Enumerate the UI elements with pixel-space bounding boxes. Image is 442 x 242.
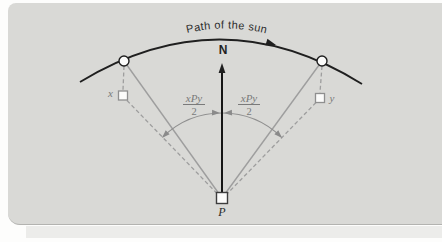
marker-x bbox=[119, 91, 128, 100]
sun-diagram: Path of the sun N x y P bbox=[0, 0, 442, 242]
angle-label-right: xPy 2 bbox=[238, 92, 260, 118]
angle-arrowhead-top-right-icon bbox=[224, 110, 232, 116]
north-label: N bbox=[219, 43, 228, 57]
sun-position-right bbox=[317, 56, 327, 66]
label-x: x bbox=[107, 87, 113, 99]
label-p: P bbox=[217, 205, 226, 219]
north-arrowhead-icon bbox=[219, 63, 226, 73]
sun-path-label: Path of the sun bbox=[185, 18, 269, 35]
sight-line-left bbox=[124, 61, 222, 198]
observer-marker bbox=[217, 193, 228, 204]
drop-line-right bbox=[320, 66, 322, 93]
bearing-line-right bbox=[226, 103, 317, 196]
angle-label-left-numerator: xPy bbox=[185, 92, 203, 104]
page: Path of the sun N x y P bbox=[0, 0, 442, 242]
angle-label-left-denominator: 2 bbox=[191, 106, 196, 117]
marker-y bbox=[316, 94, 325, 103]
sun-position-left bbox=[119, 56, 129, 66]
angle-arrowhead-top-left-icon bbox=[212, 110, 220, 116]
drop-line-left bbox=[123, 66, 124, 90]
label-y: y bbox=[329, 92, 335, 104]
angle-label-left: xPy 2 bbox=[183, 92, 205, 118]
angle-label-right-numerator: xPy bbox=[240, 92, 258, 104]
angle-label-right-denominator: 2 bbox=[246, 106, 251, 117]
